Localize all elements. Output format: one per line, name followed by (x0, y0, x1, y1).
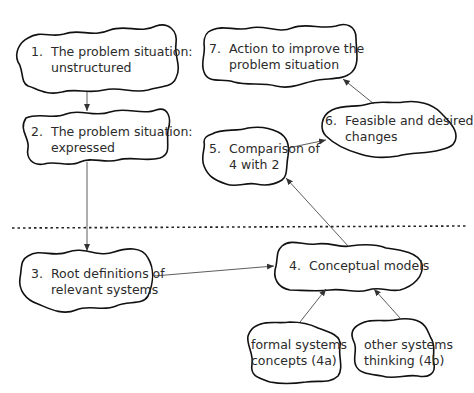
edge-4-to-5 (286, 178, 349, 247)
ssm-diagram: 1.The problem situation: unstructured 2.… (0, 0, 474, 393)
node-3-label: 3.Root definitions of relevant systems (31, 266, 165, 298)
edge-6-to-7 (343, 79, 374, 104)
edge-4a-to-4 (300, 289, 326, 322)
node-4a-label: formal systems concepts (4a) (251, 337, 347, 369)
edge-3-to-4 (154, 266, 274, 276)
node-4b-label: other systems thinking (4b) (364, 337, 453, 369)
node-6-label: 6.Feasible and desired changes (325, 113, 474, 145)
node-5-label: 5.Comparison of 4 with 2 (209, 141, 320, 173)
edge-4b-to-4 (374, 289, 400, 318)
node-7-label: 7.Action to improve the problem situatio… (209, 41, 364, 73)
divider-dotted-line (12, 226, 466, 228)
node-2-label: 2.The problem situation: expressed (31, 124, 193, 156)
node-1-label: 1.The problem situation: unstructured (31, 44, 193, 76)
node-4-label: 4.Conceptual models (289, 258, 429, 274)
